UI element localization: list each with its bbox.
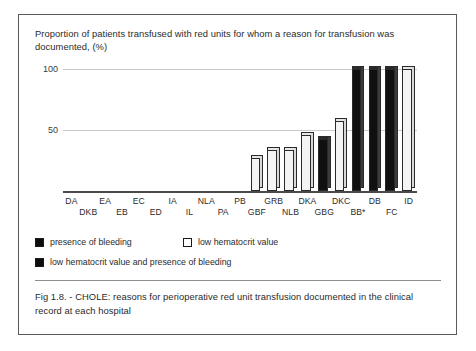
x-tick-label-DA: DA [65, 196, 77, 206]
legend-label-bleeding: presence of bleeding [50, 237, 132, 247]
x-axis-tick-labels: DADKBEAEBECEDIAILNLAPAPBGBFGRBNLBDKAGBGD… [63, 196, 417, 226]
bar-body-DB [369, 69, 378, 191]
x-tick-label-ID: ID [404, 196, 413, 206]
x-tick-label-NLA: NLA [198, 196, 215, 206]
chart-legend: presence of bleeding low hematocrit valu… [35, 237, 435, 277]
x-tick-label-BBstar: BB* [350, 207, 365, 217]
bar-body-ID [402, 69, 411, 191]
x-tick-label-GBG: GBG [315, 207, 334, 217]
x-tick-label-DKC: DKC [332, 196, 350, 206]
x-tick-label-GRB: GRB [264, 196, 283, 206]
bar-BBstar [352, 66, 364, 191]
bar-side-DB [378, 66, 381, 188]
x-tick-label-EA: EA [99, 196, 111, 206]
bar-side-GBG [328, 136, 331, 188]
x-tick-label-GBF: GBF [248, 207, 266, 217]
legend-swatch-hematocrit-icon [183, 238, 192, 247]
x-tick-label-PB: PB [234, 196, 246, 206]
x-tick-label-IL: IL [186, 207, 193, 217]
bar-side-ID [412, 66, 415, 188]
bar-side-FC [395, 66, 398, 188]
legend-label-hematocrit: low hematocrit value [198, 237, 278, 247]
bar-side-DKC [344, 118, 347, 188]
bar-body-DKC [335, 121, 344, 191]
x-tick-label-DKB: DKB [79, 207, 97, 217]
bar-side-DKA [311, 132, 314, 188]
x-tick-label-IA: IA [168, 196, 176, 206]
bar-side-GBF [260, 155, 263, 188]
legend-swatch-bleeding-icon [35, 238, 44, 247]
legend-item-hematocrit: low hematocrit value [183, 237, 278, 247]
bar-GBF [251, 155, 263, 191]
figure-frame: Proportion of patients transfused with r… [18, 14, 457, 335]
bar-body-FC [385, 69, 394, 191]
x-tick-label-EC: EC [133, 196, 145, 206]
bar-NLB [284, 147, 296, 191]
bar-DKA [301, 132, 313, 191]
caption-divider [35, 280, 441, 281]
y-tick-label-100: 100 [43, 64, 58, 74]
bar-body-GBF [251, 158, 260, 191]
bars-layer [63, 69, 417, 191]
x-axis-baseline [63, 191, 417, 193]
bar-body-GRB [267, 150, 276, 191]
bar-side-GRB [277, 147, 280, 188]
x-tick-label-DB: DB [369, 196, 381, 206]
bar-body-DKA [301, 135, 310, 191]
bar-side-BBstar [361, 66, 364, 188]
legend-item-bleeding: presence of bleeding [35, 237, 132, 247]
bar-FC [385, 66, 397, 191]
bar-body-GBG [318, 139, 327, 191]
bar-ID [402, 66, 414, 191]
bar-DB [369, 66, 381, 191]
legend-swatch-both-icon [35, 258, 44, 267]
legend-row-2: low hematocrit value and presence of ble… [35, 257, 435, 273]
bar-GRB [267, 147, 279, 191]
x-tick-label-EB: EB [116, 207, 128, 217]
bar-side-NLB [294, 147, 297, 188]
y-tick-label-50: 50 [48, 125, 58, 135]
bar-body-BBstar [352, 69, 361, 191]
figure-caption: Fig 1.8. - CHOLE: reasons for perioperat… [35, 290, 435, 318]
bar-DKC [335, 118, 347, 191]
legend-item-both: low hematocrit value and presence of ble… [35, 257, 231, 267]
x-tick-label-DKA: DKA [298, 196, 316, 206]
chart-title: Proportion of patients transfused with r… [35, 27, 435, 53]
x-tick-label-NLB: NLB [282, 207, 299, 217]
legend-label-both: low hematocrit value and presence of ble… [50, 257, 231, 267]
bar-GBG [318, 136, 330, 191]
x-tick-label-FC: FC [386, 207, 398, 217]
x-tick-label-PA: PA [218, 207, 229, 217]
bar-body-NLB [284, 150, 293, 191]
legend-row-1: presence of bleeding low hematocrit valu… [35, 237, 435, 253]
x-tick-label-ED: ED [150, 207, 162, 217]
